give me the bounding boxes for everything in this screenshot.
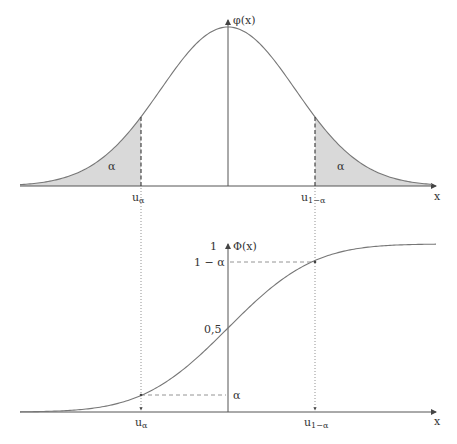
y-tick-one: 1: [210, 240, 217, 253]
cdf-plot: 1 Φ(x) 1 − α 0,5 α x uα u1−α: [20, 240, 441, 430]
right-quantile-label: u1−α: [304, 416, 329, 430]
one-minus-alpha-point: [314, 261, 317, 264]
density-plot: φ(x) x α α uα u1−α: [20, 14, 441, 205]
y-tick-half: 0,5: [204, 323, 222, 336]
y-tick-alpha: α: [233, 389, 241, 402]
left-quantile-label: uα: [135, 416, 148, 430]
y-axis-label: φ(x): [233, 14, 256, 27]
x-axis-label: x: [434, 415, 441, 428]
right-tail-area: [315, 117, 432, 186]
right-area-label: α: [337, 160, 345, 173]
diagram: φ(x) x α α uα u1−α 1 Φ(x) 1 − α 0,5 α x …: [0, 0, 457, 444]
density-curve: [20, 27, 432, 185]
left-quantile-label: uα: [132, 191, 145, 205]
right-quantile-label: u1−α: [301, 191, 326, 205]
y-axis-label: Φ(x): [233, 240, 257, 253]
left-tail-area: [20, 117, 141, 186]
alpha-point: [140, 394, 143, 397]
x-axis-label: x: [434, 190, 441, 203]
y-tick-one-minus-alpha: 1 − α: [194, 256, 225, 269]
left-area-label: α: [108, 160, 116, 173]
